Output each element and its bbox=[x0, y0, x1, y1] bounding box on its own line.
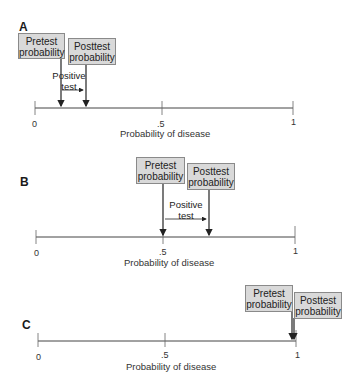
panel-b-tick-0: 0 bbox=[34, 248, 39, 258]
panel-c-tick-1: 1 bbox=[295, 350, 300, 360]
panel-c-label: C bbox=[22, 318, 31, 332]
panel-a-tick-1: 1 bbox=[291, 117, 296, 127]
panel-c-axis-title: Probability of disease bbox=[126, 361, 216, 372]
panel-a-pretest-box: Pretest probability bbox=[18, 33, 65, 59]
panel-a-test-label: Positive test bbox=[49, 70, 89, 92]
panel-b-pretest-box: Pretest probability bbox=[136, 157, 185, 184]
panel-a-axis-title: Probability of disease bbox=[120, 128, 210, 139]
panel-b-tick-1: 1 bbox=[293, 246, 298, 256]
panel-a-posttest-box: Posttest probability bbox=[68, 38, 116, 65]
panel-b-axis-title: Probability of disease bbox=[124, 257, 214, 268]
panel-b-tick-half: .5 bbox=[159, 247, 167, 257]
panel-b-test-label: Positive test bbox=[165, 199, 207, 221]
test-label-line1: Positive bbox=[49, 70, 89, 81]
test-label-line2: test bbox=[165, 210, 207, 221]
panel-b-label: B bbox=[20, 175, 29, 189]
panel-b-posttest-box: Posttest probability bbox=[187, 163, 235, 190]
panel-c-posttest-box: Posttest probability bbox=[294, 292, 342, 319]
panel-a-axis bbox=[35, 101, 293, 115]
panel-c-tick-0: 0 bbox=[36, 352, 41, 362]
test-label-line2: test bbox=[49, 81, 89, 92]
test-label-line1: Positive bbox=[165, 199, 207, 210]
panel-b-axis bbox=[36, 226, 295, 244]
panel-a-label: A bbox=[19, 20, 28, 34]
panel-a-tick-0: 0 bbox=[32, 119, 37, 129]
panel-c-axis bbox=[38, 330, 296, 347]
panel-c-tick-half: .5 bbox=[161, 350, 169, 360]
panel-c-pretest-box: Pretest probability bbox=[245, 285, 293, 312]
